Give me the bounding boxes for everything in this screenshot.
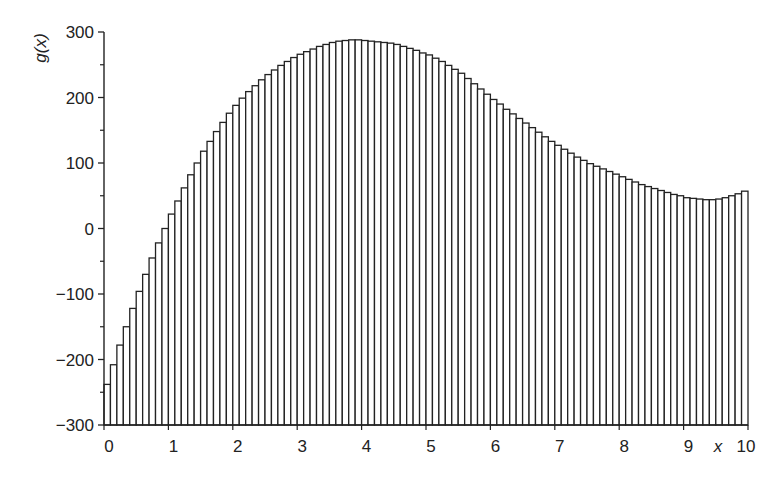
y-tick-label: −200 <box>56 351 94 370</box>
bar <box>188 175 194 425</box>
bar <box>548 141 554 425</box>
y-tick-label: 100 <box>66 154 94 173</box>
bar <box>149 258 155 425</box>
bar <box>581 160 587 425</box>
bar <box>664 192 670 425</box>
bar <box>239 98 245 425</box>
bar <box>684 198 690 425</box>
bar <box>535 132 541 425</box>
bar <box>439 61 445 425</box>
bar <box>677 196 683 425</box>
bar <box>452 69 458 425</box>
bar <box>593 166 599 425</box>
bar <box>722 198 728 425</box>
bar <box>696 199 702 425</box>
bar <box>201 151 207 425</box>
bar <box>117 345 123 425</box>
bar <box>381 42 387 425</box>
bar <box>432 58 438 425</box>
bar <box>291 58 297 425</box>
y-tick-label: −300 <box>56 416 94 435</box>
bar <box>626 179 632 425</box>
bar <box>400 46 406 425</box>
x-tick-label: 3 <box>297 437 306 456</box>
bar <box>420 53 426 425</box>
bar <box>355 40 361 425</box>
bar <box>458 73 464 425</box>
bar <box>213 132 219 425</box>
bar <box>181 188 187 425</box>
bar <box>703 200 709 425</box>
bar <box>342 41 348 425</box>
bar <box>735 194 741 425</box>
x-tick-label: 8 <box>619 437 628 456</box>
bar <box>304 52 310 425</box>
bar <box>709 200 715 425</box>
bar <box>130 308 136 425</box>
bar <box>587 164 593 425</box>
bar <box>265 75 271 425</box>
bar <box>671 194 677 425</box>
chart: −300−200−1000100200300012345678910 g(x) … <box>0 0 782 478</box>
bar <box>387 43 393 425</box>
bar <box>110 365 116 425</box>
bar <box>568 153 574 425</box>
bar <box>600 169 606 425</box>
x-tick-label: 6 <box>491 437 500 456</box>
bar <box>252 86 258 425</box>
x-tick-label: 7 <box>555 437 564 456</box>
bar <box>523 123 529 425</box>
bar <box>729 196 735 425</box>
bar <box>413 50 419 425</box>
bar <box>233 105 239 425</box>
bar <box>168 214 174 425</box>
bar <box>742 191 748 425</box>
bar <box>497 104 503 425</box>
bar <box>207 141 213 425</box>
bar <box>465 79 471 426</box>
bar <box>259 80 265 425</box>
x-tick-label: 2 <box>233 437 242 456</box>
bar <box>613 174 619 425</box>
bar <box>323 44 329 425</box>
bar <box>690 198 696 425</box>
bar <box>175 201 181 425</box>
bar <box>503 109 509 425</box>
bar <box>606 172 612 425</box>
bar <box>484 94 490 425</box>
bar <box>478 89 484 425</box>
x-tick-label: 4 <box>362 437 371 456</box>
bar <box>104 384 110 425</box>
bar <box>143 274 149 425</box>
bar <box>374 42 380 425</box>
bar <box>226 113 232 425</box>
bar-series <box>104 40 748 425</box>
bar <box>619 177 625 425</box>
bar <box>362 41 368 425</box>
bar <box>368 41 374 425</box>
bar <box>555 145 561 425</box>
bar <box>220 122 226 425</box>
bar <box>658 191 664 425</box>
bar <box>445 65 451 425</box>
bar <box>471 84 477 425</box>
x-tick-label: 9 <box>684 437 693 456</box>
bar <box>297 54 303 425</box>
bar <box>162 229 168 426</box>
bar <box>716 199 722 425</box>
y-axis-label: g(x) <box>31 33 50 62</box>
y-tick-label: 300 <box>66 23 94 42</box>
bar <box>561 149 567 425</box>
bar <box>632 182 638 425</box>
bar <box>426 55 432 425</box>
bar <box>329 42 335 425</box>
y-tick-label: 200 <box>66 89 94 108</box>
bar <box>349 40 355 425</box>
y-tick-label: 0 <box>85 220 94 239</box>
bar <box>651 189 657 425</box>
bar <box>317 46 323 425</box>
bar <box>246 92 252 425</box>
x-axis-label: x <box>713 437 723 456</box>
bar <box>542 137 548 425</box>
bar <box>271 70 277 425</box>
